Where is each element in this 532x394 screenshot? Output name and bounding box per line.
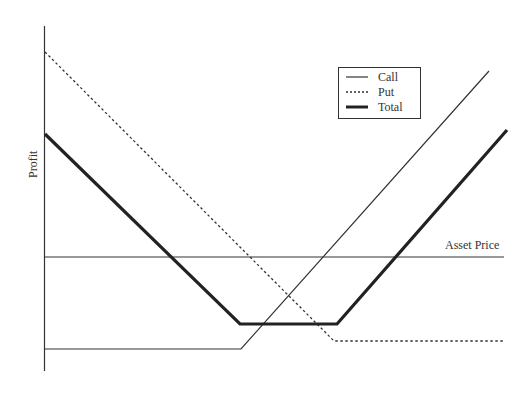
y-axis-label: Profit (26, 150, 40, 178)
legend: Call Put Total (339, 68, 421, 119)
put-line (45, 52, 505, 341)
legend-total: Total (378, 100, 403, 114)
option-strategy-chart: Profit Asset Price Call Put Total (0, 0, 532, 394)
total-line (45, 130, 507, 324)
call-line (45, 71, 489, 349)
x-axis-label: Asset Price (445, 238, 499, 252)
legend-put: Put (378, 85, 395, 99)
legend-call: Call (378, 70, 399, 84)
